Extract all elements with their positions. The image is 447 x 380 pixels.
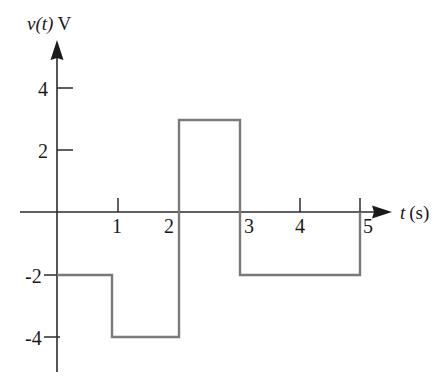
x-axis-label: t(s) <box>400 203 429 222</box>
y-axis-label-unit: V <box>57 13 71 34</box>
waveform-plot <box>0 0 447 380</box>
x-tick-label-5: 5 <box>363 216 373 236</box>
y-tick-label-minus-4: -4 <box>25 328 42 348</box>
y-axis-label-arg: (t) <box>35 13 53 34</box>
x-axis-label-unit: (s) <box>409 202 429 223</box>
x-tick-label-2: 2 <box>164 216 174 236</box>
x-tick-label-4: 4 <box>295 216 305 236</box>
y-tick-label-minus-2: -2 <box>25 266 42 286</box>
waveform-trace <box>57 120 360 337</box>
x-axis-label-var: t <box>400 202 405 223</box>
x-tick-label-1: 1 <box>112 216 122 236</box>
y-axis <box>51 40 64 372</box>
y-axis-label: v(t)V <box>27 14 71 33</box>
y-tick-label-2: 2 <box>38 141 48 161</box>
figure-canvas: v(t)V t(s) 4 2 -2 -4 1 2 3 4 5 <box>0 0 447 380</box>
x-axis-arrowhead <box>372 206 392 219</box>
y-axis-arrowhead <box>51 40 64 60</box>
x-axis <box>20 206 392 219</box>
y-tick-label-4: 4 <box>38 79 48 99</box>
x-tick-label-3: 3 <box>244 216 254 236</box>
